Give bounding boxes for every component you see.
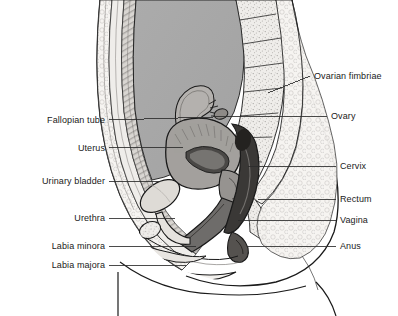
anatomy-figure: Fallopian tube Uterus Urinary bladder Ur… [0,0,398,316]
label-uterus: Uterus [78,143,105,153]
label-labia-minora: Labia minora [52,241,105,251]
label-urethra: Urethra [74,213,105,223]
label-labia-majora: Labia majora [52,260,105,270]
label-rectum: Rectum [340,194,372,204]
label-urinary-bladder: Urinary bladder [42,176,105,186]
label-cervix: Cervix [340,161,366,171]
label-vagina: Vagina [340,215,368,225]
label-ovary: Ovary [331,111,356,121]
label-fallopian-tube: Fallopian tube [47,115,105,125]
label-ovarian-fimbriae: Ovarian fimbriae [314,71,382,81]
label-anus: Anus [340,241,361,251]
